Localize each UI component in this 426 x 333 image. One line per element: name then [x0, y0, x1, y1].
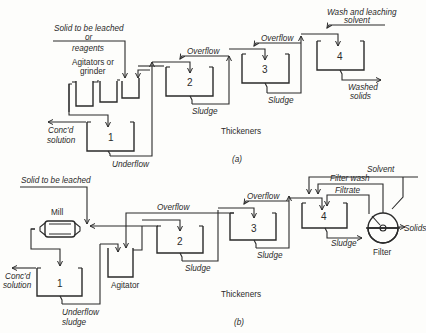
overflow-label-2: Overflow — [261, 34, 294, 43]
feed-reagents-label: reagents — [72, 44, 104, 53]
sludge-line-1 — [192, 56, 229, 104]
wash-solvent-label-2: solvent — [344, 16, 371, 25]
grinder-label: grinder — [80, 67, 106, 76]
thickener-number: 4 — [321, 211, 327, 222]
sludge-label-b2: Sludge — [257, 251, 283, 260]
overflow-label-b2: Overflow — [247, 192, 280, 201]
agitators-label: Agitators or — [72, 58, 114, 67]
agitator-label: Agitator — [111, 281, 139, 290]
sludge-label-b3: Sludge — [331, 239, 357, 248]
conc-solution-label: solution — [47, 136, 76, 145]
caption-b: (b) — [234, 318, 244, 327]
mill-label: Mill — [51, 208, 63, 217]
agitator-b — [108, 248, 133, 277]
rotary-filter — [366, 213, 400, 243]
thickener-number: 1 — [108, 132, 114, 143]
solvent-label: Solvent — [367, 165, 395, 174]
underflow-label: Underflow — [112, 160, 150, 169]
thickener-2-b: 2 — [157, 226, 203, 261]
solids-label: Solids — [404, 224, 426, 233]
thickener-number: 1 — [57, 278, 63, 289]
filter-wash-label: Filter wash — [330, 174, 370, 183]
thickener-number: 3 — [262, 64, 268, 75]
sludge-label-1: Sludge — [192, 107, 218, 116]
mill — [40, 221, 80, 237]
underflow-line-b — [62, 244, 100, 304]
thickeners-label-b: Thickeners — [221, 290, 261, 299]
feed-arrow-b — [20, 187, 87, 224]
caption-a: (a) — [232, 155, 242, 164]
conc-solution-label-b: solution — [3, 281, 32, 290]
sludge-label-b1: Sludge — [185, 264, 211, 273]
overflow-label-1: Overflow — [187, 47, 220, 56]
thickeners-label-a: Thickeners — [221, 127, 261, 136]
feed-label-b: Solid to be leached — [21, 176, 91, 185]
diagram-b: Solid to be leached Mill 1 Conc'd soluti… — [3, 165, 426, 327]
wash-solvent-arrow — [327, 25, 385, 28]
diagram-a: Solid to be leached or reagents Agitator… — [47, 8, 397, 169]
thickener-1-a: 1 — [87, 122, 134, 156]
thickener-4-a: 4 — [317, 41, 381, 80]
conc-label: Conc'd — [48, 126, 74, 135]
thickener-1-b: 1 — [37, 268, 82, 304]
underflow-line — [110, 62, 152, 156]
conc-label-b: Conc'd — [5, 272, 31, 281]
filter-label: Filter — [373, 248, 391, 257]
sludge-line-2 — [267, 36, 301, 93]
thickener-number: 3 — [251, 223, 257, 234]
underflow-sludge-label-b: sludge — [62, 318, 87, 327]
feed-label: Solid to be leached — [54, 24, 124, 33]
thickener-3-b: 3 — [230, 213, 276, 248]
thickener-number: 2 — [177, 236, 183, 247]
underflow-label-b: Underflow — [62, 308, 100, 317]
leaching-flow-diagrams: Solid to be leached or reagents Agitator… — [0, 0, 426, 333]
washed-solids-label: solids — [350, 92, 371, 101]
overflow-label-b1: Overflow — [157, 203, 190, 212]
thickener-4-b: 4 — [302, 203, 362, 238]
sludge-label-2: Sludge — [268, 96, 294, 105]
filtrate-label: Filtrate — [335, 186, 360, 195]
thickener-number: 4 — [337, 51, 343, 62]
filtrate-arrow — [327, 195, 369, 214]
thickener-number: 2 — [187, 77, 193, 88]
washed-label: Washed — [348, 83, 378, 92]
